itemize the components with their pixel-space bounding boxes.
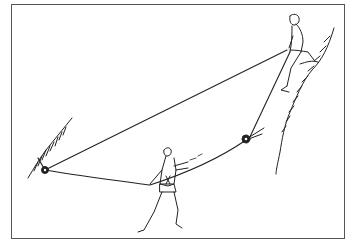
belay-rope [248,52,290,141]
right-cliff [276,28,334,174]
standing-climber [138,148,202,232]
seated-climber [281,14,314,92]
haul-rope [45,140,246,185]
rope-rescue-illustration [0,0,356,249]
left-pulley [38,158,49,174]
main-rope [45,50,287,170]
left-rock-face [28,118,72,178]
